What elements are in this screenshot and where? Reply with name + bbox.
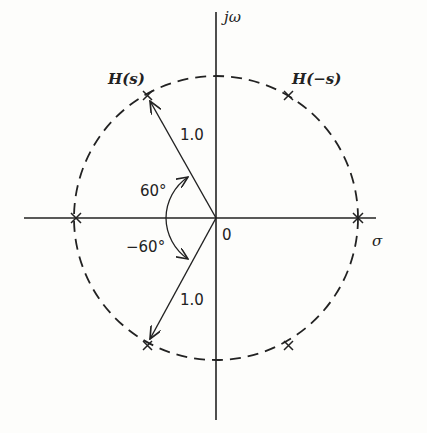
radius-label-lower: 1.0 <box>180 291 204 309</box>
radius-vector-upper <box>150 101 216 218</box>
radius-label-upper: 1.0 <box>180 126 204 144</box>
radius-vector-lower <box>150 218 216 339</box>
sigma-axis-label: σ <box>372 232 383 250</box>
pole-diagram: jω σ 0 H(s) H(−s) 1.0 1.0 60° −60° <box>0 0 427 433</box>
angle-label-lower: −60° <box>126 238 165 256</box>
pole-markers <box>71 91 363 350</box>
origin-label: 0 <box>222 226 232 244</box>
diagram-canvas: jω σ 0 H(s) H(−s) 1.0 1.0 60° −60° <box>0 0 427 433</box>
pole-x-icon <box>284 341 293 350</box>
h-minus-s-label: H(−s) <box>291 70 341 88</box>
jw-axis-label: jω <box>221 8 241 26</box>
pole-x-icon <box>284 91 293 100</box>
angle-arc-lower <box>166 218 188 259</box>
angle-label-upper: 60° <box>140 182 167 200</box>
hs-label: H(s) <box>107 70 145 88</box>
angle-arc-upper <box>166 177 188 218</box>
pole-x-icon <box>143 91 152 100</box>
